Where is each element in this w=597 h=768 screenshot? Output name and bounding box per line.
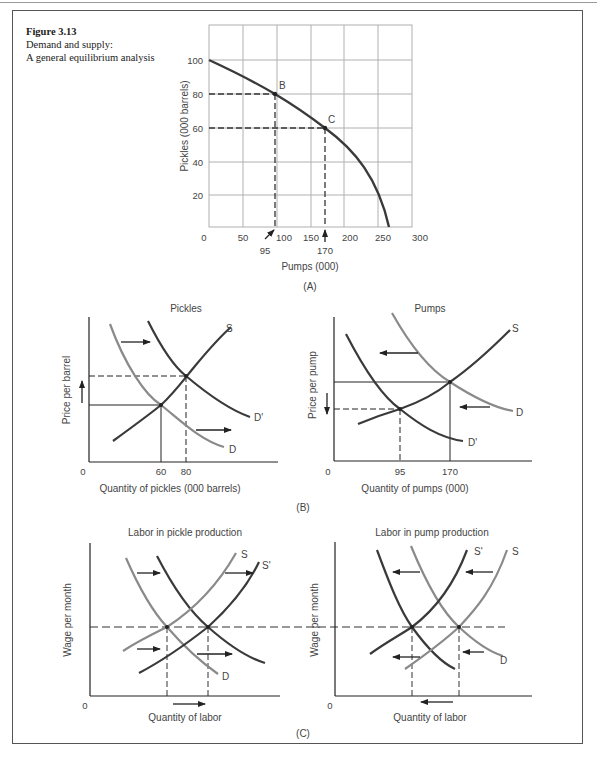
panel-a-x-label: Pumps (000) [281,261,338,272]
pumps-demand-d-prime [346,334,463,441]
svg-text:50: 50 [238,232,249,243]
svg-text:60: 60 [192,123,203,134]
ppf-curve [209,60,389,227]
point-c-marker [323,126,327,130]
pumps-x-label: Quantity of pumps (000) [361,483,468,494]
pickles-y-label: Price per barrel [61,356,72,424]
panel-b-pickles-chart: Pickles S D' D 0 60 80 Quantity of pickl… [61,303,278,494]
svg-text:40: 40 [192,157,203,168]
svg-text:100: 100 [187,55,203,66]
panel-c-pump-labor-chart: Labor in pump production S' S D 0 Quanti… [309,527,532,723]
pump-labor-y-label: Wage per month [309,583,320,657]
pickle-labor-demand-shifted [157,556,265,663]
svg-text:150: 150 [303,232,319,243]
pickles-d-label: D [229,444,236,455]
svg-text:200: 200 [342,232,358,243]
pump-labor-demand-d [411,546,503,656]
pickles-tick-0: 0 [80,466,85,477]
pump-labor-tick-0: 0 [327,700,332,711]
pumps-s-label: S [512,323,519,334]
pickles-tick-80: 80 [181,466,192,477]
pickle-labor-x-label: Quantity of labor [148,712,222,723]
pickle-labor-y-label: Wage per month [62,583,73,657]
pickles-s-label: S [226,323,233,334]
panel-a-label: (A) [303,281,316,292]
marker-95-arrow [265,230,274,239]
panel-b-pumps-chart: Pumps S D D' 0 95 170 Quantity of pumps … [307,303,532,494]
point-b-label: B [279,80,286,91]
svg-text:80: 80 [192,89,203,100]
pumps-tick-0: 0 [325,466,330,477]
pumps-y-label: Price per pump [307,351,318,419]
svg-text:100: 100 [276,232,292,243]
pumps-supply-s [358,330,510,424]
pumps-d-prime-label: D' [468,437,477,448]
svg-text:0: 0 [201,232,206,243]
pickles-d-prime-label: D' [254,412,263,423]
point-b-marker [273,92,277,96]
pump-labor-s-label: S [512,546,519,557]
svg-text:20: 20 [192,190,203,201]
panel-a-ppf-chart: B C 100 80 60 40 20 0 50 100 150 200 250… [179,25,428,292]
marker-95-label: 95 [260,245,271,256]
pickle-labor-title: Labor in pickle production [128,527,242,538]
pumps-title: Pumps [414,303,445,314]
panel-c-label: (C) [296,728,310,739]
pickles-supply-s [113,327,231,441]
pickle-labor-d-label: D [222,671,229,682]
pickles-title: Pickles [170,303,202,314]
panel-a-y-label: Pickles (000 barrels) [179,80,190,171]
panel-b-label: (B) [296,502,309,513]
pump-labor-title: Labor in pump production [375,527,488,538]
pump-labor-s-prime-label: S' [474,546,483,557]
svg-text:300: 300 [412,232,428,243]
figure-graphics: B C 100 80 60 40 20 0 50 100 150 200 250… [0,0,597,768]
pickles-tick-60: 60 [156,466,167,477]
point-c-label: C [328,114,335,125]
panel-a-x-ticks: 0 50 100 150 200 250 300 [201,232,428,243]
pump-labor-x-label: Quantity of labor [393,712,467,723]
marker-170-label: 170 [317,245,333,256]
pumps-tick-95: 95 [395,466,406,477]
pumps-d-label: D [516,407,523,418]
pump-labor-d-label: D [500,655,507,666]
pickle-labor-s-label: S [241,549,248,560]
panel-c-pickle-labor-chart: Labor in pickle production S S' D 0 Quan… [62,527,505,723]
pickle-labor-tick-0: 0 [82,700,87,711]
pumps-demand-d [392,313,513,411]
panel-a-grid [209,25,412,227]
pickle-labor-s-prime-label: S' [262,560,271,571]
pumps-tick-170: 170 [442,466,458,477]
pickles-x-label: Quantity of pickles (000 barrels) [99,483,240,494]
pickle-labor-demand-d [126,558,218,674]
svg-text:250: 250 [375,232,391,243]
